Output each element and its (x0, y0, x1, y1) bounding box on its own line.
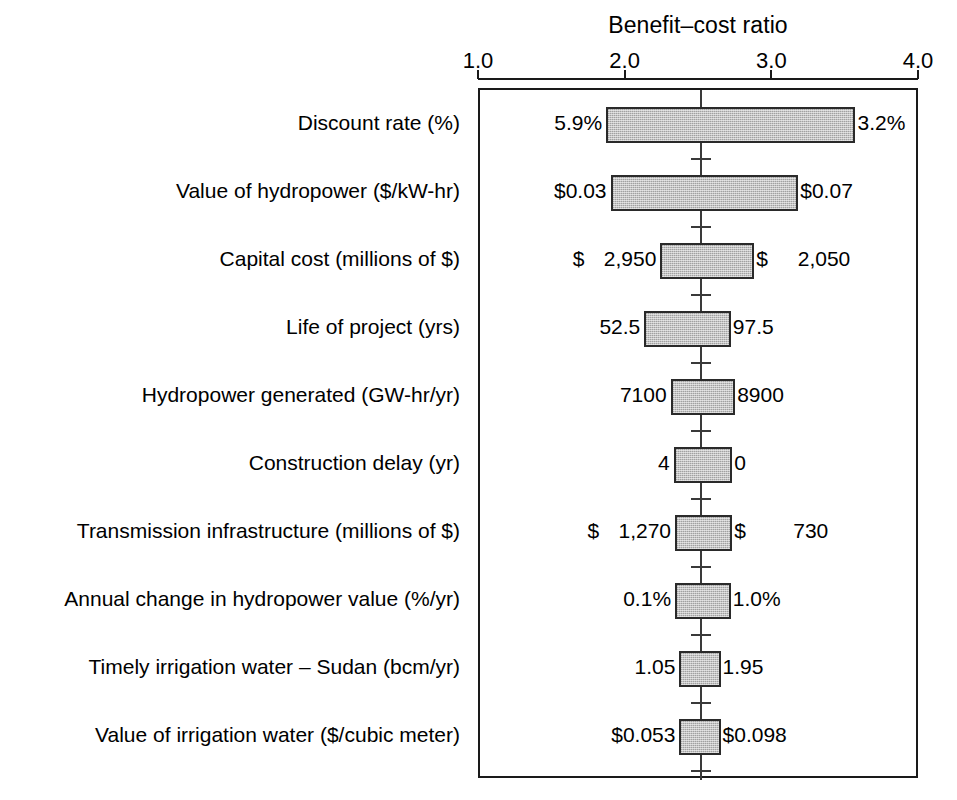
x-axis-line (478, 78, 918, 80)
bar-high-value-label: 1.95 (723, 655, 764, 679)
base-case-tick (691, 226, 711, 228)
numeric-value: 2,050 (778, 247, 850, 271)
chart-title: Benefit–cost ratio (478, 12, 918, 39)
currency-symbol: $ (577, 519, 599, 543)
x-axis-tick-label: 4.0 (903, 48, 934, 74)
base-case-tick (691, 566, 711, 568)
bar-low-value-label: 1.05 (0, 655, 675, 679)
x-axis-tick-label: 1.0 (463, 48, 494, 74)
tornado-bar (611, 175, 799, 211)
bar-high-value-label: $730 (734, 519, 828, 543)
bar-high-value-label: $2,050 (756, 247, 850, 271)
bar-low-value-label: $1,270 (0, 519, 671, 543)
currency-symbol: $ (756, 247, 778, 271)
tornado-bar (606, 107, 855, 143)
tornado-bar (660, 243, 754, 279)
bar-low-value-label: 4 (0, 451, 670, 475)
bar-low-value-label: 7100 (0, 383, 667, 407)
base-case-tick (691, 430, 711, 432)
bar-low-value-label: $2,950 (0, 247, 656, 271)
currency-symbol: $ (734, 519, 756, 543)
bar-high-value-label: 0 (734, 451, 746, 475)
base-case-tick (691, 702, 711, 704)
tornado-bar (675, 583, 731, 619)
bar-low-value-label: 5.9% (0, 111, 602, 135)
base-case-tick (691, 498, 711, 500)
bar-low-value-label: 0.1% (0, 587, 671, 611)
money-value: $2,050 (756, 247, 850, 271)
base-case-tick (691, 158, 711, 160)
bar-low-value-label: $0.03 (0, 179, 607, 203)
base-case-tick (691, 294, 711, 296)
money-value: $2,950 (562, 247, 656, 271)
x-axis-tick-label: 2.0 (609, 48, 640, 74)
currency-symbol: $ (562, 247, 584, 271)
base-case-tick (691, 362, 711, 364)
bar-low-value-label: 52.5 (0, 315, 640, 339)
bar-high-value-label: 8900 (737, 383, 784, 407)
money-value: $1,270 (577, 519, 671, 543)
bar-high-value-label: 97.5 (733, 315, 774, 339)
x-axis: 1.02.03.04.0 (0, 48, 957, 88)
tornado-bar (674, 447, 733, 483)
tornado-bar (675, 515, 732, 551)
numeric-value: 730 (756, 519, 828, 543)
base-case-tick (691, 634, 711, 636)
bar-high-value-label: $0.07 (800, 179, 853, 203)
bar-high-value-label: 3.2% (857, 111, 905, 135)
base-case-tick (691, 770, 711, 772)
tornado-bar (671, 379, 736, 415)
money-value: $730 (734, 519, 828, 543)
x-axis-tick-label: 3.0 (756, 48, 787, 74)
numeric-value: 2,950 (584, 247, 656, 271)
tornado-chart-figure: Benefit–cost ratio 1.02.03.04.0 Discount… (0, 0, 957, 800)
bar-low-value-label: $0.053 (0, 723, 675, 747)
bar-high-value-label: 1.0% (733, 587, 781, 611)
bar-high-value-label: $0.098 (723, 723, 787, 747)
tornado-bar (644, 311, 731, 347)
tornado-bar (679, 651, 720, 687)
tornado-bar (679, 719, 720, 755)
numeric-value: 1,270 (599, 519, 671, 543)
